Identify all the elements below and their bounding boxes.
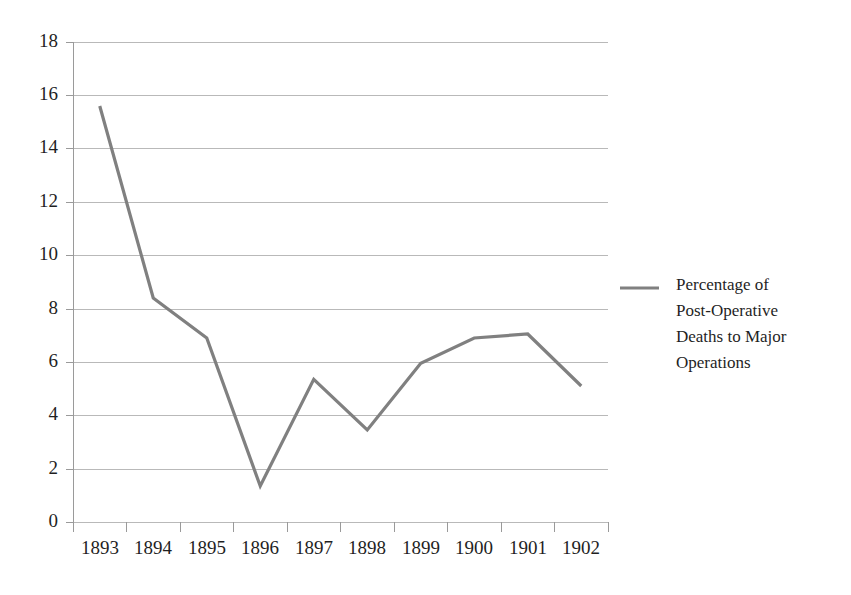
x-axis-label-1897: 1897 (295, 537, 333, 558)
x-axis-label-1898: 1898 (348, 537, 386, 558)
x-axis-label-1899: 1899 (402, 537, 440, 558)
y-axis-label-8: 8 (49, 297, 59, 318)
y-axis-label-0: 0 (49, 510, 59, 531)
x-axis-label-1901: 1901 (509, 537, 547, 558)
y-axis-label-14: 14 (39, 136, 59, 157)
y-axis-label-6: 6 (49, 350, 59, 371)
legend-label-line-3: Deaths to Major (676, 327, 787, 346)
y-axis-label-12: 12 (39, 190, 58, 211)
chart-background (0, 0, 851, 595)
y-axis-label-4: 4 (49, 403, 59, 424)
x-axis-label-1895: 1895 (188, 537, 226, 558)
x-axis-label-1894: 1894 (134, 537, 173, 558)
legend-label-line-1: Percentage of (676, 275, 769, 294)
x-axis-label-1900: 1900 (455, 537, 493, 558)
y-axis-label-10: 10 (39, 243, 58, 264)
y-axis-label-16: 16 (39, 83, 58, 104)
x-axis-label-1896: 1896 (241, 537, 279, 558)
line-chart-figure: 18 16 14 12 10 8 6 4 2 0 1893 (0, 0, 851, 595)
y-axis-label-2: 2 (49, 457, 59, 478)
legend-label-line-2: Post-Operative (676, 301, 778, 320)
legend-label-line-4: Operations (676, 353, 751, 372)
y-axis-label-18: 18 (39, 30, 58, 51)
x-axis-label-1893: 1893 (81, 537, 119, 558)
chart-canvas: 18 16 14 12 10 8 6 4 2 0 1893 (0, 0, 851, 595)
x-axis-label-1902: 1902 (562, 537, 600, 558)
